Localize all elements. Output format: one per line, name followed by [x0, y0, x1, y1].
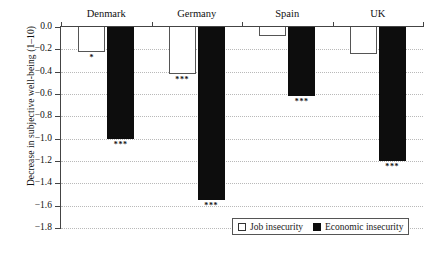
bar-germany-job-insecurity — [169, 27, 196, 74]
bar-denmark-economic-insecurity — [107, 27, 134, 139]
bar-uk-job-insecurity — [350, 27, 377, 54]
y-tick-label: −0.4 — [0, 67, 52, 77]
y-tick-label: −0.8 — [0, 111, 52, 121]
open-square-icon — [238, 223, 246, 231]
significance-marker: *** — [101, 141, 140, 149]
y-tick-label: −1.2 — [0, 156, 52, 166]
x-axis-label-denmark: Denmark — [61, 8, 152, 19]
y-tick-label: −1.0 — [0, 134, 52, 144]
filled-square-icon — [313, 223, 321, 231]
x-axis-label-germany: Germany — [152, 8, 243, 19]
significance-marker: * — [72, 54, 111, 62]
legend-label-economic-insecurity: Economic insecurity — [325, 222, 403, 232]
y-tick-label: 0.0 — [0, 22, 52, 32]
bar-denmark-job-insecurity — [78, 27, 105, 52]
y-tick-label: −0.2 — [0, 44, 52, 54]
y-tick-label: −0.6 — [0, 89, 52, 99]
significance-marker: *** — [192, 202, 231, 210]
x-tick-mark — [423, 22, 424, 27]
bar-uk-economic-insecurity — [379, 27, 406, 161]
y-tick-label: −1.4 — [0, 178, 52, 188]
bars-layer: **************** — [61, 27, 423, 228]
significance-marker: *** — [373, 163, 412, 171]
chart-legend: Job insecurity Economic insecurity — [232, 218, 409, 235]
x-axis-label-uk: UK — [333, 8, 424, 19]
y-tick-label: −1.8 — [0, 223, 52, 233]
legend-item-economic-insecurity: Economic insecurity — [313, 222, 403, 232]
significance-marker: *** — [282, 98, 321, 106]
y-tick-label: −1.6 — [0, 201, 52, 211]
legend-label-job-insecurity: Job insecurity — [250, 222, 303, 232]
bar-spain-economic-insecurity — [288, 27, 315, 96]
significance-marker: *** — [163, 76, 202, 84]
bar-spain-job-insecurity — [259, 27, 286, 36]
x-axis-label-spain: Spain — [242, 8, 333, 19]
bar-chart-figure: Decrease in subjective well-being (1–10)… — [0, 0, 431, 258]
legend-item-job-insecurity: Job insecurity — [238, 222, 303, 232]
bar-germany-economic-insecurity — [198, 27, 225, 200]
